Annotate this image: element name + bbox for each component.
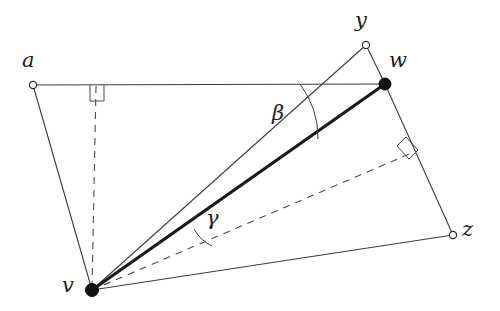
edge-v-y [92,45,366,290]
edge-y-w [366,45,385,84]
angle-label-beta: β [272,103,284,124]
geometric-figure: a w y z v β γ [0,0,500,311]
vertex-label-w: w [389,50,407,71]
angle-arc-gamma [194,229,212,246]
vertex-marker-y [362,41,369,48]
vertex-label-v: v [62,275,74,296]
angle-label-gamma: γ [206,208,219,229]
vertex-marker-w [379,78,391,90]
dashed-perpendicular-v-to-wz [92,152,414,290]
vertex-label-z: z [462,219,473,240]
angle-arc-beta [300,84,318,139]
edge-v-w-highlighted [92,84,385,290]
vertex-marker-a [29,81,36,88]
vertex-label-a: a [22,50,35,71]
edge-a-v [33,85,92,290]
right-angle-marker-wz [397,137,418,159]
edge-a-w [33,84,385,85]
vertex-label-y: y [355,10,367,31]
figure-canvas [0,0,500,311]
dashed-perpendicular-v-to-aw [92,86,96,290]
vertex-marker-v [86,284,99,297]
vertex-marker-z [449,231,456,238]
right-angle-marker-aw [90,85,104,101]
edge-v-z [92,235,453,290]
